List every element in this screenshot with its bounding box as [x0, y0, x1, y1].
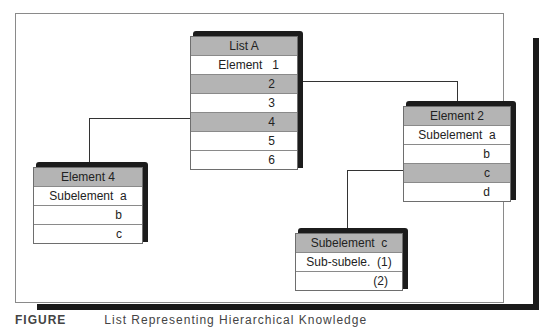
list-a-row-1: Element 1	[191, 55, 297, 74]
list-a-row-5: 5	[191, 131, 297, 150]
element-4-row-a-label: Subelement a	[49, 189, 126, 203]
connector-list-a-2-horizontal	[303, 81, 457, 82]
subelement-c-row-1-label: Sub-subele. (1)	[306, 255, 391, 269]
element-4-row-b: b	[34, 205, 142, 224]
box-shadow	[511, 106, 516, 200]
element-2-header: Element 2	[404, 107, 510, 125]
element-2-row-b: b	[404, 144, 510, 163]
figure-caption-text: List Representing Hierarchical Knowledge	[104, 313, 367, 327]
connector-list-a-4-horizontal	[89, 118, 190, 119]
list-a-box: List A Element 1 2 3 4 5 6	[190, 36, 298, 170]
subelement-c-header-label: Subelement c	[311, 236, 388, 250]
box-shadow	[298, 36, 303, 168]
figure-caption: FIGUREList Representing Hierarchical Kno…	[15, 313, 367, 327]
box-shadow	[143, 167, 148, 242]
subelement-c-row-2: (2)	[296, 271, 402, 290]
frame-shadow-right	[533, 38, 539, 310]
element-2-row-a: Subelement a	[404, 125, 510, 144]
connector-element-2-c-vertical	[347, 170, 348, 229]
list-a-row-6: 6	[191, 150, 297, 169]
list-a-row-2: 2	[191, 74, 297, 93]
subelement-c-box: Subelement c Sub-subele. (1) (2)	[295, 233, 403, 291]
element-2-box: Element 2 Subelement a b c d	[403, 106, 511, 202]
list-a-row-3: 3	[191, 93, 297, 112]
connector-list-a-2-vertical	[457, 81, 458, 101]
list-a-header: List A	[191, 37, 297, 55]
element-2-row-d: d	[404, 182, 510, 201]
element-4-header: Element 4	[34, 168, 142, 186]
subelement-c-row-1: Sub-subele. (1)	[296, 252, 402, 271]
element-4-row-c: c	[34, 224, 142, 243]
subelement-c-header: Subelement c	[296, 234, 402, 252]
connector-element-2-c-horizontal	[347, 170, 403, 171]
element-2-row-c: c	[404, 163, 510, 182]
element-4-box: Element 4 Subelement a b c	[33, 167, 143, 244]
element-2-row-a-label: Subelement a	[418, 128, 495, 142]
list-a-row-1-label: Element 1	[218, 58, 279, 72]
element-4-row-a: Subelement a	[34, 186, 142, 205]
connector-list-a-4-vertical	[89, 118, 90, 163]
box-shadow	[403, 233, 408, 289]
figure-label: FIGURE	[15, 313, 66, 327]
frame-shadow-bottom	[37, 304, 539, 310]
list-a-row-4: 4	[191, 112, 297, 131]
